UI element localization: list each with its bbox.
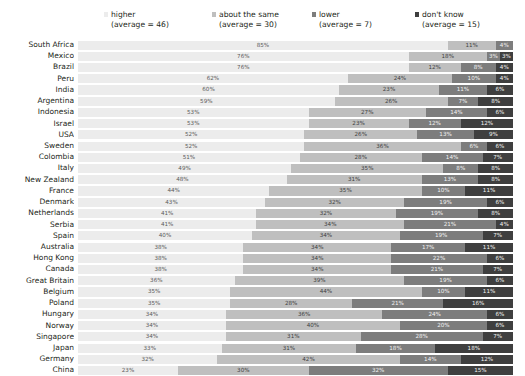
- bar-segment[interactable]: 23%: [309, 119, 409, 128]
- bar-segment[interactable]: 62%: [78, 74, 348, 83]
- bar-segment[interactable]: 41%: [78, 209, 256, 218]
- bar-segment[interactable]: 3%: [500, 52, 513, 61]
- bar-segment[interactable]: 34%: [78, 321, 226, 330]
- bar-segment[interactable]: 11%: [465, 186, 513, 195]
- bar-segment[interactable]: 6%: [461, 142, 487, 151]
- bar-segment[interactable]: 6%: [487, 321, 513, 330]
- bar-segment[interactable]: 7%: [483, 153, 513, 162]
- bar-segment[interactable]: 28%: [300, 153, 422, 162]
- bar-segment[interactable]: 12%: [461, 119, 513, 128]
- bar-segment[interactable]: 76%: [78, 52, 409, 61]
- bar-segment[interactable]: 21%: [404, 220, 495, 229]
- bar-segment[interactable]: 35%: [78, 299, 230, 308]
- bar-segment[interactable]: 85%: [78, 41, 448, 50]
- bar-segment[interactable]: 21%: [391, 265, 482, 274]
- bar-segment[interactable]: 8%: [461, 63, 496, 72]
- bar-segment[interactable]: 8%: [478, 97, 513, 106]
- bar-segment[interactable]: 48%: [78, 175, 287, 184]
- bar-segment[interactable]: 6%: [487, 108, 513, 117]
- bar-segment[interactable]: 21%: [352, 299, 443, 308]
- bar-segment[interactable]: 10%: [452, 74, 496, 83]
- bar-segment[interactable]: 19%: [396, 209, 479, 218]
- bar-segment[interactable]: 32%: [265, 198, 404, 207]
- bar-segment[interactable]: 32%: [309, 366, 448, 375]
- bar-segment[interactable]: 31%: [287, 175, 422, 184]
- bar-segment[interactable]: 7%: [483, 332, 513, 341]
- bar-segment[interactable]: 23%: [78, 366, 178, 375]
- bar-segment[interactable]: 12%: [461, 355, 513, 364]
- bar-segment[interactable]: 18%: [356, 344, 434, 353]
- bar-segment[interactable]: 52%: [78, 142, 304, 151]
- bar-segment[interactable]: 38%: [78, 265, 243, 274]
- bar-segment[interactable]: 59%: [78, 97, 335, 106]
- bar-segment[interactable]: 10%: [422, 186, 466, 195]
- bar-segment[interactable]: 27%: [309, 108, 426, 117]
- bar-segment[interactable]: 16%: [443, 299, 513, 308]
- bar-segment[interactable]: 12%: [409, 63, 461, 72]
- bar-segment[interactable]: 23%: [339, 85, 439, 94]
- bar-segment[interactable]: 4%: [496, 41, 513, 50]
- bar-segment[interactable]: 13%: [422, 175, 479, 184]
- bar-segment[interactable]: 14%: [422, 153, 483, 162]
- bar-segment[interactable]: 35%: [78, 287, 230, 296]
- bar-segment[interactable]: 8%: [478, 209, 513, 218]
- bar-segment[interactable]: 19%: [404, 198, 487, 207]
- bar-segment[interactable]: 35%: [291, 164, 443, 173]
- bar-segment[interactable]: 39%: [235, 276, 405, 285]
- bar-segment[interactable]: 41%: [78, 220, 256, 229]
- bar-segment[interactable]: 8%: [478, 164, 513, 173]
- bar-segment[interactable]: 34%: [243, 254, 391, 263]
- bar-segment[interactable]: 36%: [78, 276, 235, 285]
- bar-segment[interactable]: 4%: [496, 63, 513, 72]
- bar-segment[interactable]: 24%: [382, 310, 486, 319]
- bar-segment[interactable]: 35%: [269, 186, 421, 195]
- bar-segment[interactable]: 15%: [448, 366, 513, 375]
- bar-segment[interactable]: 6%: [487, 142, 513, 151]
- bar-segment[interactable]: 34%: [256, 220, 404, 229]
- bar-segment[interactable]: 28%: [361, 332, 483, 341]
- bar-segment[interactable]: 76%: [78, 63, 409, 72]
- bar-segment[interactable]: 53%: [78, 108, 309, 117]
- bar-segment[interactable]: 34%: [78, 332, 226, 341]
- bar-segment[interactable]: 10%: [422, 287, 466, 296]
- legend-item-0[interactable]: higher(average = 46): [104, 10, 169, 31]
- bar-segment[interactable]: 7%: [448, 97, 478, 106]
- bar-segment[interactable]: 4%: [496, 220, 513, 229]
- bar-segment[interactable]: 17%: [391, 243, 465, 252]
- bar-segment[interactable]: 7%: [483, 231, 513, 240]
- bar-segment[interactable]: 9%: [474, 130, 513, 139]
- bar-segment[interactable]: 44%: [78, 186, 269, 195]
- bar-segment[interactable]: 34%: [243, 265, 391, 274]
- bar-segment[interactable]: 18%: [409, 52, 487, 61]
- legend-item-1[interactable]: about the same(average = 30): [212, 10, 279, 31]
- bar-segment[interactable]: 6%: [487, 198, 513, 207]
- bar-segment[interactable]: 6%: [487, 85, 513, 94]
- bar-segment[interactable]: 34%: [78, 310, 226, 319]
- legend-item-3[interactable]: don't know(average = 15): [415, 10, 480, 31]
- bar-segment[interactable]: 30%: [178, 366, 309, 375]
- bar-segment[interactable]: 11%: [439, 85, 487, 94]
- bar-segment[interactable]: 11%: [465, 243, 513, 252]
- bar-segment[interactable]: 49%: [78, 164, 291, 173]
- bar-segment[interactable]: 12%: [409, 119, 461, 128]
- bar-segment[interactable]: 44%: [230, 287, 421, 296]
- bar-segment[interactable]: 6%: [487, 254, 513, 263]
- bar-segment[interactable]: 8%: [478, 175, 513, 184]
- bar-segment[interactable]: 6%: [487, 310, 513, 319]
- bar-segment[interactable]: 38%: [78, 243, 243, 252]
- bar-segment[interactable]: 6%: [487, 276, 513, 285]
- bar-segment[interactable]: 18%: [435, 344, 513, 353]
- bar-segment[interactable]: 19%: [400, 231, 483, 240]
- bar-segment[interactable]: 26%: [335, 97, 448, 106]
- bar-segment[interactable]: 11%: [465, 287, 513, 296]
- bar-segment[interactable]: 42%: [217, 355, 400, 364]
- bar-segment[interactable]: 26%: [304, 130, 417, 139]
- bar-segment[interactable]: 40%: [78, 231, 252, 240]
- bar-segment[interactable]: 24%: [348, 74, 452, 83]
- bar-segment[interactable]: 36%: [226, 310, 383, 319]
- bar-segment[interactable]: 14%: [400, 355, 461, 364]
- legend-item-2[interactable]: lower(average = 7): [312, 10, 372, 31]
- bar-segment[interactable]: 36%: [304, 142, 461, 151]
- bar-segment[interactable]: 52%: [78, 130, 304, 139]
- bar-segment[interactable]: 31%: [226, 332, 361, 341]
